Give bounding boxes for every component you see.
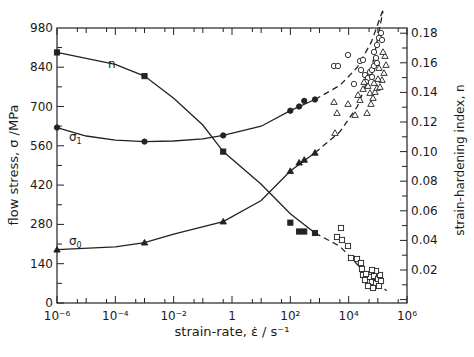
circle-marker [374,42,379,47]
circle-marker [54,125,59,130]
curve-label-sigma1: σ1 [69,130,82,146]
triangle-marker [364,110,370,116]
square-marker [288,220,293,225]
triangle-marker [375,76,381,82]
circle-marker [142,139,147,144]
circle-marker [379,37,384,42]
circle-marker [358,67,363,72]
y-tick-label-left: 560 [30,139,53,153]
curve-sigma0 [57,153,315,250]
y-tick-label-right: 0.06 [411,204,438,218]
square-marker [348,255,353,260]
square-marker [302,229,307,234]
y-tick-label-right: 0.02 [411,263,438,277]
square-marker [359,266,364,271]
square-marker [338,225,343,230]
y-tick-label-right: 0.08 [411,174,438,188]
y-tick-label-left: 980 [30,21,53,35]
y-tick-label-left: 0 [45,296,53,310]
y-axis-label-left: flow stress, σ /MPa [6,105,21,226]
triangle-marker [332,130,338,136]
square-marker [370,285,375,290]
circle-marker [371,49,376,54]
x-tick-label: 10⁻² [160,309,187,323]
circle-marker [378,30,383,35]
chart: 10⁻⁶10⁻⁴10⁻²110²10⁴10⁶014028042056070084… [0,0,474,357]
curve-label-n: n [108,57,116,71]
x-tick-label: 10⁶ [397,309,417,323]
circle-marker [312,97,317,102]
x-tick-label: 10⁴ [339,309,359,323]
square-marker [365,283,370,288]
curve-n [57,52,315,233]
square-marker [334,234,339,239]
y-tick-label-left: 840 [30,60,53,74]
circle-marker [221,133,226,138]
circle-marker [302,98,307,103]
x-tick-label: 1 [228,309,236,323]
triangle-marker [334,110,340,116]
y-tick-label-left: 280 [30,217,53,231]
circle-marker [345,52,350,57]
y-tick-label-right: 0.04 [411,233,438,247]
x-tick-label: 10⁻⁶ [44,309,71,323]
circle-marker [351,81,356,86]
square-marker [312,230,317,235]
triangle-marker [368,101,374,107]
y-tick-label-right: 0.14 [411,85,438,99]
square-marker [221,149,226,154]
y-tick-label-right: 0.12 [411,115,438,129]
square-marker [376,283,381,288]
triangle-marker [331,99,337,105]
square-marker [339,237,344,242]
square-marker [54,50,59,55]
y-tick-label-left: 140 [30,257,53,271]
circle-marker [288,108,293,113]
square-marker [362,277,367,282]
square-marker [378,278,383,283]
x-axis-label: strain-rate, ε̇ / s⁻¹ [175,324,290,339]
circle-marker [296,104,301,109]
y-tick-label-left: 420 [30,178,53,192]
y-tick-label-right: 0.18 [411,26,438,40]
circle-marker [369,74,374,79]
triangle-marker [220,218,226,224]
x-tick-label: 10⁻⁴ [102,309,129,323]
data-markers [54,30,389,290]
square-marker [369,267,374,272]
square-marker [345,243,350,248]
circle-marker [335,63,340,68]
triangle-marker [380,49,386,55]
square-marker [142,74,147,79]
y-tick-label-left: 700 [30,100,53,114]
y-tick-label-right: 0.10 [411,145,438,159]
curve-sigma1 [57,100,315,142]
square-marker [363,271,368,276]
curve-label-sigma0: σ0 [69,234,82,250]
triangle-marker [383,62,389,68]
triangle-marker [345,101,351,107]
square-marker [358,260,363,265]
x-tick-label: 10² [280,309,300,323]
circle-marker [360,57,365,62]
square-marker [297,229,302,234]
y-tick-label-right: 0.16 [411,56,438,70]
circle-marker [373,55,378,60]
y-axis-label-right: strain-hardening index, n [453,84,467,235]
